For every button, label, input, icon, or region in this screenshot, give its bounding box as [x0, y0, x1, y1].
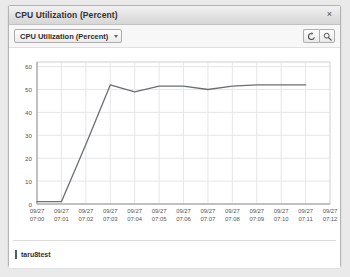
y-axis-tick-label: 50	[25, 86, 32, 93]
x-axis-tick-label: 07:11	[298, 216, 312, 222]
x-axis-tick-label: 07:12	[323, 216, 338, 222]
metric-panel: CPU Utilization (Percent) × CPU Utilizat…	[8, 5, 341, 267]
x-axis-tick-label: 09/27	[225, 208, 240, 214]
x-axis-tick-label: 09/27	[152, 208, 167, 214]
chevron-down-icon	[114, 35, 118, 38]
zoom-button[interactable]	[319, 29, 335, 43]
x-axis-tick-label: 09/27	[274, 208, 289, 214]
x-axis-tick-label: 09/27	[298, 208, 313, 214]
metric-select[interactable]: CPU Utilization (Percent)	[14, 29, 122, 43]
chart-container[interactable]: 010203040506009/2707:0009/2707:0109/2707…	[9, 48, 340, 240]
x-axis-tick-label: 07:08	[225, 216, 240, 222]
x-axis-tick-label: 07:01	[54, 216, 69, 222]
x-axis-tick-label: 09/27	[127, 208, 142, 214]
toolbar-actions	[303, 29, 335, 43]
x-axis-tick-label: 09/27	[103, 208, 118, 214]
legend-item-label: taru8test	[21, 251, 51, 258]
x-axis-tick-label: 07:03	[103, 216, 118, 222]
y-axis-tick-label: 0	[29, 201, 33, 208]
x-axis-tick-label: 07:07	[201, 216, 216, 222]
y-axis-tick-label: 30	[25, 132, 32, 139]
x-axis-tick-label: 07:04	[127, 216, 142, 222]
close-icon[interactable]: ×	[324, 9, 335, 20]
cpu-utilization-line-chart: 010203040506009/2707:0009/2707:0109/2707…	[9, 48, 340, 240]
x-axis-tick-label: 09/27	[78, 208, 93, 214]
x-axis-tick-label: 07:06	[176, 216, 191, 222]
refresh-icon	[307, 32, 316, 41]
magnifier-icon	[323, 32, 332, 41]
panel-titlebar: CPU Utilization (Percent) ×	[9, 6, 340, 25]
y-axis-tick-label: 10	[25, 178, 32, 185]
page-title: CPU Utilization (Percent)	[9, 10, 118, 20]
x-axis-tick-label: 07:00	[30, 216, 45, 222]
x-axis-tick-label: 09/27	[54, 208, 69, 214]
y-axis-tick-label: 20	[25, 155, 32, 162]
x-axis-tick-label: 09/27	[323, 208, 338, 214]
x-axis-tick-label: 09/27	[249, 208, 264, 214]
chart-legend: taru8test	[9, 241, 340, 268]
app-root: CPU Utilization (Percent) × CPU Utilizat…	[0, 0, 350, 277]
x-axis-tick-label: 07:05	[152, 216, 167, 222]
refresh-button[interactable]	[303, 29, 319, 43]
x-axis-tick-label: 07:02	[78, 216, 93, 222]
x-axis-tick-label: 07:09	[249, 216, 264, 222]
x-axis-tick-label: 09/27	[176, 208, 191, 214]
x-axis-tick-label: 07:10	[274, 216, 289, 222]
legend-color-swatch	[15, 250, 17, 259]
y-axis-tick-label: 40	[25, 109, 32, 116]
metric-select-label: CPU Utilization (Percent)	[20, 32, 108, 41]
x-axis-tick-label: 09/27	[201, 208, 216, 214]
y-axis-tick-label: 60	[25, 63, 32, 70]
x-axis-tick-label: 09/27	[30, 208, 45, 214]
panel-toolbar: CPU Utilization (Percent)	[9, 25, 340, 48]
